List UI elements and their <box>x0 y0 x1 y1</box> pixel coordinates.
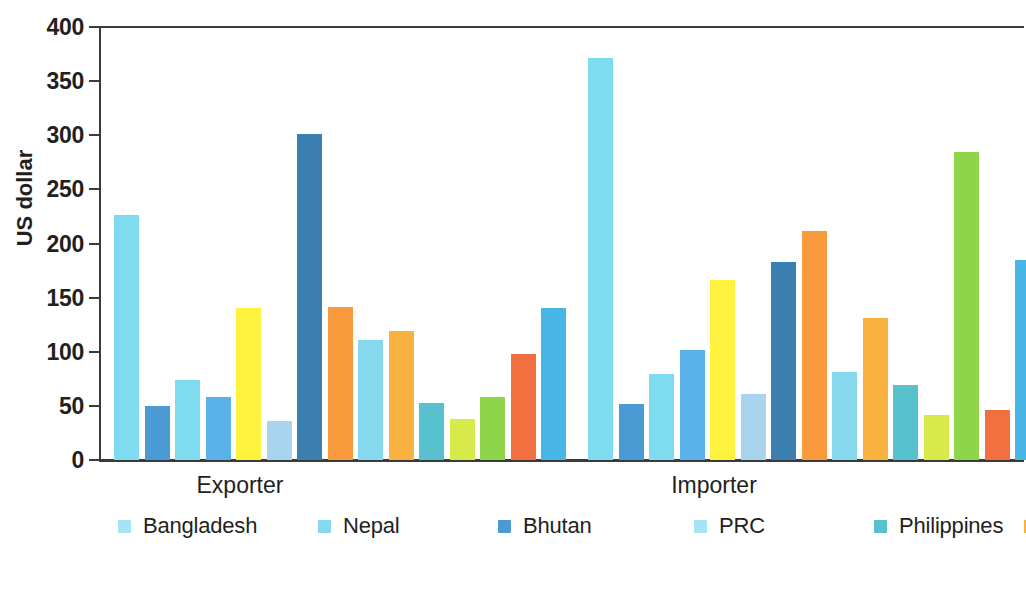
y-axis-tick-label: 200 <box>22 230 84 257</box>
y-axis-tick-label: 350 <box>22 68 84 95</box>
y-axis-tick-label: 50 <box>22 392 84 419</box>
legend-label: Bangladesh <box>143 513 257 539</box>
y-axis-tick <box>89 188 100 190</box>
bar-bangladesh-importer <box>588 58 613 460</box>
bar-philippines-exporter <box>419 403 444 460</box>
bar-maldives-importer <box>771 262 796 460</box>
y-axis-tick-label: 0 <box>22 447 84 474</box>
bar-chart: US dollar 050100150200250300350400 Expor… <box>0 0 1026 594</box>
legend-swatch-icon <box>498 520 511 533</box>
legend-label: Philippines <box>899 513 1003 539</box>
bar-india-importer <box>680 350 705 460</box>
bar-myanmar-exporter <box>328 307 353 460</box>
bar-pakistan-importer <box>863 318 888 460</box>
bar-singapore-importer <box>924 415 949 460</box>
chart-legend: BangladeshNepalBhutanPRCPhilippinesPakis… <box>118 512 1018 540</box>
bar-indonesia-exporter <box>236 308 261 460</box>
legend-item-nepal[interactable]: Nepal <box>318 512 498 540</box>
bar-myanmar-importer <box>802 231 827 460</box>
bar-prc-importer <box>649 374 674 460</box>
bar-pakistan-exporter <box>389 331 414 460</box>
bar-singapore-exporter <box>450 419 475 460</box>
y-axis-tick <box>89 459 100 461</box>
bar-sri-lanka-importer <box>954 152 979 461</box>
legend-swatch-icon <box>694 520 707 533</box>
y-axis-tick <box>89 26 100 28</box>
legend-label: Bhutan <box>523 513 592 539</box>
bar-viet-nam-exporter <box>541 308 566 460</box>
y-axis-tick <box>89 134 100 136</box>
y-axis-tick <box>89 351 100 353</box>
y-axis-tick <box>89 297 100 299</box>
legend-swatch-icon <box>318 520 331 533</box>
y-axis-tick <box>89 243 100 245</box>
bar-sri-lanka-exporter <box>480 397 505 460</box>
bar-indonesia-importer <box>710 280 735 460</box>
bar-nepal-importer <box>832 372 857 460</box>
y-axis-tick <box>89 80 100 82</box>
bar-nepal-exporter <box>358 340 383 460</box>
bar-bhutan-exporter <box>145 406 170 460</box>
bar-maldives-exporter <box>297 134 322 460</box>
legend-label: Nepal <box>343 513 399 539</box>
bar-india-exporter <box>206 397 231 460</box>
bar-malaysia-importer <box>741 394 766 460</box>
group-label-importer: Importer <box>614 472 814 499</box>
legend-item-prc[interactable]: PRC <box>694 512 874 540</box>
y-axis-tick-label: 150 <box>22 284 84 311</box>
y-axis-tick-label: 100 <box>22 338 84 365</box>
y-axis-tick-label: 250 <box>22 176 84 203</box>
y-axis-tick <box>89 405 100 407</box>
bar-malaysia-exporter <box>267 421 292 460</box>
bar-thailand-importer <box>985 410 1010 460</box>
legend-swatch-icon <box>118 520 131 533</box>
plot-area <box>100 27 1022 460</box>
legend-swatch-icon <box>874 520 887 533</box>
legend-label: PRC <box>719 513 765 539</box>
y-axis-tick-label: 400 <box>22 14 84 41</box>
bar-prc-exporter <box>175 380 200 460</box>
bar-viet-nam-importer <box>1015 260 1026 460</box>
legend-item-bhutan[interactable]: Bhutan <box>498 512 694 540</box>
legend-item-bangladesh[interactable]: Bangladesh <box>118 512 318 540</box>
bar-philippines-importer <box>893 385 918 460</box>
group-label-exporter: Exporter <box>140 472 340 499</box>
legend-item-philippines[interactable]: Philippines <box>874 512 1024 540</box>
y-axis-tick-label: 300 <box>22 122 84 149</box>
bar-thailand-exporter <box>511 354 536 460</box>
bar-bangladesh-exporter <box>114 215 139 460</box>
bar-bhutan-importer <box>619 404 644 460</box>
